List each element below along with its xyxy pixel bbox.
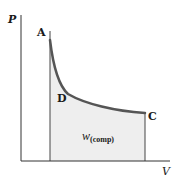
pv-diagram: P V A D C w(comp) xyxy=(0,0,179,180)
diagram-graphics xyxy=(0,0,179,180)
work-label: w(comp) xyxy=(82,127,114,143)
point-label-c: C xyxy=(148,111,157,122)
work-subscript: (comp) xyxy=(90,135,114,144)
point-label-d: D xyxy=(57,93,67,104)
y-axis-label: P xyxy=(8,14,16,25)
work-symbol: w xyxy=(82,129,90,143)
point-label-a: A xyxy=(37,27,46,38)
x-axis-label: V xyxy=(162,166,170,177)
